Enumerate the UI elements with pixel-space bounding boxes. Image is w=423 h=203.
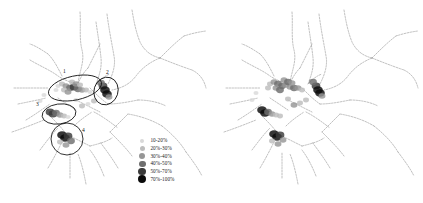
legend-item[interactable]: 20%-30% xyxy=(138,145,175,153)
cluster-point xyxy=(280,137,287,143)
legend-item-label: 70%-100% xyxy=(150,177,174,182)
legend-left: 10-20% 20%-30% 30%-40% 40%-50% 50%-70% 7… xyxy=(138,137,175,183)
cluster-point xyxy=(85,102,90,106)
cluster-point xyxy=(77,83,83,88)
annotation-label-2: 2 xyxy=(106,69,109,75)
map-panel-left[interactable]: 1234 10-20% 20%-30% 30%-40% 40%-50% 50%-… xyxy=(0,0,211,203)
cluster-point xyxy=(253,91,258,95)
cluster-point xyxy=(63,142,70,148)
cluster-point xyxy=(291,102,298,108)
map-right-svg xyxy=(212,0,423,203)
legend-swatch-icon xyxy=(140,139,144,143)
cluster-point xyxy=(65,115,70,119)
cluster-point xyxy=(249,98,254,102)
cluster-point xyxy=(275,141,282,147)
cluster-point xyxy=(299,88,305,93)
point-cluster-right xyxy=(249,77,325,147)
cluster-point xyxy=(285,97,291,102)
annotation-label-4: 4 xyxy=(82,127,85,133)
legend-item-label: 40%-50% xyxy=(150,161,171,166)
annotation-label-1: 1 xyxy=(63,68,66,74)
legend-item[interactable]: 40%-50% xyxy=(138,160,175,168)
legend-item-label: 30%-40% xyxy=(150,154,171,159)
cluster-point xyxy=(319,93,326,99)
legend-item-label: 50%-70% xyxy=(150,169,171,174)
legend-swatch-icon xyxy=(139,153,145,159)
cluster-point xyxy=(41,93,46,97)
legend-swatch-icon xyxy=(138,175,146,183)
annotation-label-3: 3 xyxy=(36,101,39,107)
legend-swatch-icon xyxy=(140,146,145,151)
map-panel-right[interactable]: 10-20% 20%-30% 30%-40% 40%-50% 50%-70% 7… xyxy=(212,0,423,203)
legend-item[interactable]: 10-20% xyxy=(138,137,175,145)
cluster-point xyxy=(65,89,72,95)
legend-item[interactable]: 70%-100% xyxy=(138,175,175,183)
cluster-point xyxy=(297,101,303,106)
cluster-point xyxy=(106,94,113,100)
cluster-point xyxy=(265,86,271,91)
cluster-point xyxy=(276,87,284,93)
cluster-point xyxy=(87,90,92,94)
cluster-point xyxy=(269,139,275,144)
figure-root: 1234 10-20% 20%-30% 30%-40% 40%-50% 50%-… xyxy=(0,0,423,203)
cluster-point xyxy=(79,104,85,109)
legend-swatch-icon xyxy=(139,161,146,168)
cluster-point xyxy=(277,114,283,119)
legend-item-label: 20%-30% xyxy=(150,146,171,151)
cluster-point xyxy=(303,98,309,103)
cluster-point xyxy=(289,80,296,86)
legend-item[interactable]: 30%-40% xyxy=(138,152,175,160)
cluster-point xyxy=(57,140,63,145)
cluster-point xyxy=(309,79,317,85)
cluster-point xyxy=(53,88,58,92)
map-left-svg: 1234 xyxy=(0,0,211,203)
legend-item-label: 10-20% xyxy=(150,138,167,143)
